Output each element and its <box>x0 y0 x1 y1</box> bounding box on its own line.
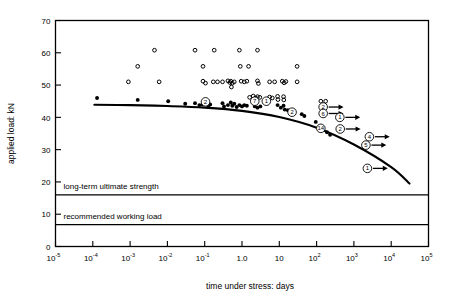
data-point <box>212 48 216 52</box>
ann-5: 5 <box>362 141 387 150</box>
data-point <box>201 65 205 69</box>
data-point <box>136 65 140 69</box>
data-point <box>193 48 197 52</box>
ann-1-mid: 1 <box>336 113 361 122</box>
series-1 <box>95 96 332 137</box>
ann-1-bottom: 1 <box>363 164 388 173</box>
data-point <box>157 80 161 84</box>
annotation-arrow-head <box>339 104 344 109</box>
data-point <box>211 80 215 84</box>
annotation-arrow-head <box>356 126 361 131</box>
ann-4: 4 <box>365 132 390 141</box>
annotation-arrow-head <box>381 143 386 148</box>
data-point <box>295 65 299 69</box>
data-point <box>183 102 187 106</box>
data-point <box>230 85 234 89</box>
y-tick-label-60: 60 <box>42 49 51 58</box>
data-point <box>153 48 157 52</box>
y-tick-label-50: 50 <box>42 81 51 90</box>
data-point <box>245 104 249 108</box>
data-point <box>314 120 318 124</box>
y-tick-label-40: 40 <box>42 114 51 123</box>
y-tick-label-0: 0 <box>46 243 51 252</box>
data-point <box>95 96 99 100</box>
annotation-arrow-head <box>383 166 388 171</box>
y-tick-label-10: 10 <box>42 210 51 219</box>
data-point <box>221 80 225 84</box>
x-tick-label-7: 102 <box>309 252 321 263</box>
annotation-label: 14 <box>318 125 325 131</box>
ann-14: 14 <box>317 124 326 133</box>
y-tick-label-20: 20 <box>42 178 51 187</box>
x-tick-label-10: 105 <box>421 252 433 263</box>
data-point <box>136 98 140 102</box>
ann-7: 7 <box>250 97 259 106</box>
x-tick-label-1: 10-4 <box>84 252 98 263</box>
ann-2-lower: 2 <box>336 125 361 134</box>
data-point <box>302 114 306 118</box>
y-tick-label-30: 30 <box>42 146 51 155</box>
data-point <box>193 101 197 105</box>
annotation-arrow-head <box>385 134 390 139</box>
data-point <box>232 102 236 106</box>
ann-2-upper-left: 2 <box>201 98 210 107</box>
data-point <box>258 104 262 108</box>
data-point <box>273 80 277 84</box>
data-point <box>247 65 251 69</box>
data-point <box>238 48 242 52</box>
data-point <box>256 48 260 52</box>
x-tick-label-8: 103 <box>346 252 358 263</box>
x-tick-label-9: 104 <box>383 252 395 263</box>
annotation-arrow-head <box>355 115 360 120</box>
x-tick-label-2: 10-3 <box>121 252 135 263</box>
reference-label-0: long-term ultimate strength <box>64 182 159 191</box>
ann-2-curve: 2 <box>288 108 297 117</box>
y-axis-title: applied load: kN <box>6 103 16 164</box>
y-tick-label-70: 70 <box>42 17 51 26</box>
series-0 <box>127 48 328 103</box>
x-axis-title: time under stress: days <box>206 281 294 291</box>
data-point <box>295 80 299 84</box>
ann-1-left: 1 <box>262 97 271 106</box>
x-tick-label-6: 10 <box>275 254 284 263</box>
data-point <box>127 80 131 84</box>
data-point <box>166 99 170 103</box>
data-point <box>276 103 280 107</box>
data-point <box>216 80 220 84</box>
x-tick-label-0: 10-5 <box>47 252 61 263</box>
reference-label-1: recommended working load <box>64 212 162 221</box>
x-tick-label-4: 10-1 <box>196 252 210 263</box>
data-point <box>222 104 226 108</box>
x-tick-label-5: 1.0 <box>236 254 248 263</box>
data-point <box>268 80 272 84</box>
x-tick-label-3: 10-2 <box>159 252 173 263</box>
chart-figure: 01020304050607010-510-410-310-210-11.010… <box>0 0 451 295</box>
creep-rupture-chart: 01020304050607010-510-410-310-210-11.010… <box>0 0 451 295</box>
data-point <box>282 104 286 108</box>
data-point <box>238 65 242 69</box>
